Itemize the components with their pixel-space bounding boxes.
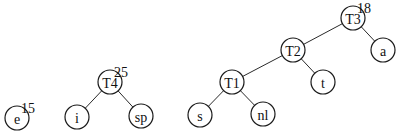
edges [85, 24, 375, 109]
tree-node-t: t [311, 70, 335, 94]
node-label: T1 [224, 76, 240, 91]
node-label: e [14, 112, 20, 127]
tree-node-i: i [65, 105, 89, 129]
huffman-forest-diagram: e15T425ispT318T2aT1tsnl [0, 0, 400, 135]
nodes: e15T425ispT318T2aT1tsnl [5, 1, 395, 131]
node-label: T2 [285, 44, 301, 59]
edge-T4-i [85, 91, 102, 109]
tree-node-e: e15 [5, 101, 35, 131]
tree-node-sp: sp [129, 104, 153, 128]
node-label: s [197, 109, 202, 124]
edge-T2-t [301, 59, 315, 73]
edge-T3-a [361, 27, 375, 41]
node-label: a [380, 44, 387, 59]
edge-T1-s [208, 91, 223, 107]
edge-T3-T2 [304, 24, 343, 45]
tree-node-T1: T1 [220, 70, 244, 94]
node-weight: 15 [21, 101, 35, 116]
node-label: sp [135, 110, 147, 125]
tree-node-s: s [188, 103, 212, 127]
tree-node-a: a [371, 38, 395, 62]
node-label: i [75, 111, 79, 126]
node-weight: 25 [114, 65, 128, 80]
tree-node-T3: T318 [341, 1, 371, 31]
node-label: t [321, 76, 325, 91]
edge-T4-sp [118, 91, 133, 107]
tree-node-T2: T2 [281, 38, 305, 62]
node-weight: 18 [357, 1, 371, 16]
edge-T2-T1 [243, 56, 283, 77]
node-label: nl [258, 108, 269, 123]
tree-node-T4: T425 [98, 65, 128, 95]
edge-T1-nl [240, 91, 254, 106]
tree-node-nl: nl [251, 102, 275, 126]
